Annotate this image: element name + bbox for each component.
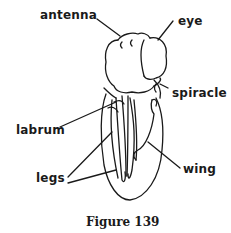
label-legs: legs [36,172,65,184]
label-labrum: labrum [16,124,65,136]
figure-caption: Figure 139 [86,216,159,228]
label-eye: eye [178,15,203,27]
insect-pupa-drawing [0,0,231,233]
appendages [108,96,157,182]
label-antenna: antenna [40,9,97,21]
label-spiracle: spiracle [172,87,227,99]
label-wing: wing [183,163,216,175]
